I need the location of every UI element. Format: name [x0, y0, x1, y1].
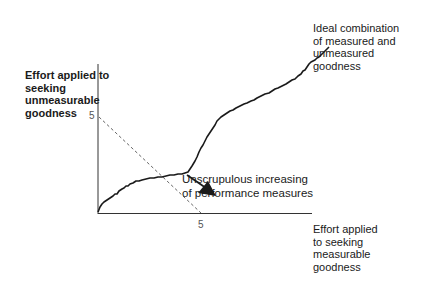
- curve-end-label-line: goodness: [313, 60, 399, 73]
- arrow-label-line: of performance measures: [182, 187, 313, 201]
- curve-end-label-line: unmeasured: [313, 47, 399, 60]
- x-tick-5: 5: [198, 219, 204, 230]
- y-axis-label-line: seeking: [25, 82, 109, 95]
- x-axis-label-line: goodness: [313, 261, 378, 274]
- curve-end-label-line: of measured and: [313, 35, 399, 48]
- curve-end-label-line: Ideal combination: [313, 22, 399, 35]
- x-axis-label-line: Effort applied: [313, 223, 378, 236]
- x-axis-label: Effort applied to seeking measurable goo…: [313, 223, 378, 273]
- arrow-label: Unscrupulous increasing of performance m…: [182, 173, 313, 200]
- arrow-label-line: Unscrupulous increasing: [182, 173, 313, 187]
- y-axis-label: Effort applied to seeking unmeasurable g…: [25, 69, 109, 119]
- curve-end-label: Ideal combination of measured and unmeas…: [313, 22, 399, 72]
- y-axis-label-line: goodness: [25, 107, 109, 120]
- y-axis-label-line: unmeasurable: [25, 94, 109, 107]
- y-axis-label-line: Effort applied to: [25, 69, 109, 82]
- x-axis-label-line: to seeking: [313, 236, 378, 249]
- x-axis-label-line: measurable: [313, 248, 378, 261]
- y-tick-5: 5: [89, 110, 95, 121]
